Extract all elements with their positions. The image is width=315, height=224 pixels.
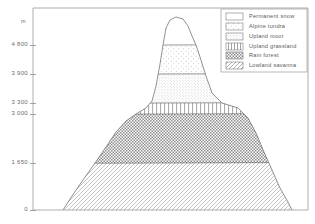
legend-swatch-permanent-snow (226, 13, 243, 20)
boundary-3900 (30, 74, 300, 75)
boundary-3000 (30, 114, 300, 115)
y-tick-label-4800: 4 800 (0, 41, 28, 47)
legend-swatch-rain-forest (226, 52, 243, 59)
legend-swatch-upland-grassland (226, 43, 243, 50)
zone-band-lowland-savanna (30, 163, 300, 211)
boundary-3300 (30, 103, 300, 104)
y-tick-label-3300: 3 300 (0, 99, 28, 105)
y-tick-label-3900: 3 900 (0, 70, 28, 76)
legend-label-alpine-tundra: Alpine tundra (249, 23, 285, 29)
legend-label-lowland-savanna: Lowland savanna (249, 62, 296, 68)
legend-swatch-alpine-tundra (226, 23, 243, 30)
zone-band-rain-forest (30, 114, 300, 163)
y-axis-unit-label: m (21, 18, 26, 24)
legend-swatch-lowland-savanna (226, 62, 243, 69)
legend-swatch-upland-moor (226, 33, 243, 40)
zone-band-upland-moor (30, 74, 300, 103)
zone-band-upland-grassland (30, 103, 300, 114)
y-tick-label-0: 0 (0, 206, 28, 212)
legend-label-upland-grassland: Upland grassland (249, 43, 297, 49)
legend-label-upland-moor: Upland moor (249, 33, 284, 39)
legend-label-rain-forest: Rain forest (249, 52, 279, 58)
mountain-vegetation-zones-figure: m 4 800 3 900 3 300 3 000 1 650 0 Perman… (0, 0, 315, 224)
y-tick-label-3000: 3 000 (0, 110, 28, 116)
y-tick-label-1650: 1 650 (0, 159, 28, 165)
legend-label-permanent-snow: Permanent snow (249, 13, 294, 19)
